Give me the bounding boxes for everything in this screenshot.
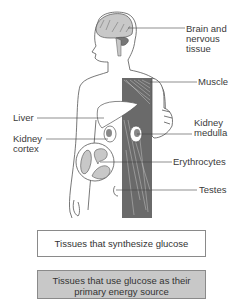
legend-use-text-line2: primary energy source bbox=[38, 286, 205, 297]
label-liver: Liver bbox=[13, 113, 34, 123]
label-kidney-medulla: Kidney medulla bbox=[194, 118, 227, 138]
label-brain: Brain and nervous tissue bbox=[186, 24, 227, 54]
brainstem-shape bbox=[116, 38, 121, 56]
label-kidney-cortex-line2: cortex bbox=[13, 144, 42, 154]
label-brain-line3: tissue bbox=[186, 44, 227, 54]
kidney-left bbox=[104, 126, 116, 142]
legend-synthesize-glucose: Tissues that synthesize glucose bbox=[37, 230, 206, 257]
label-erythrocytes: Erythrocytes bbox=[173, 157, 226, 167]
label-muscle: Muscle bbox=[198, 77, 228, 87]
legend-use-text-line1: Tissues that use glucose as their bbox=[38, 275, 205, 286]
legend-use-glucose: Tissues that use glucose as their primar… bbox=[37, 270, 206, 299]
brain-shape bbox=[96, 14, 133, 38]
label-kidney-cortex: Kidney cortex bbox=[13, 134, 42, 154]
muscle-region bbox=[122, 78, 152, 218]
label-testes: Testes bbox=[199, 185, 226, 195]
testes-shape bbox=[114, 186, 118, 196]
label-kidney-medulla-line2: medulla bbox=[194, 128, 227, 138]
legend-synthesize-text: Tissues that synthesize glucose bbox=[55, 238, 189, 249]
arm-outline bbox=[152, 78, 173, 138]
